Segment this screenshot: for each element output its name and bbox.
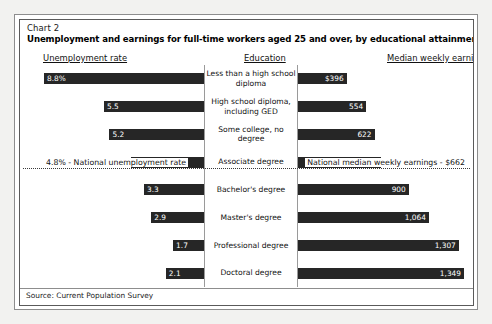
bar-unemployment-rate: 8.8% (44, 73, 204, 84)
bar-unemployment-rate: 5.2 (109, 129, 204, 140)
bar-value-unemployment-rate: 2.9 (154, 213, 166, 222)
bar-value-unemployment-rate: 8.8% (47, 74, 66, 83)
column-header-education: Education (244, 53, 286, 63)
reference-dotted-line (23, 168, 470, 169)
education-label: Professional degree (205, 232, 297, 260)
bar-unemployment-rate: 1.7 (173, 240, 204, 251)
bar-unemployment-rate: 5.5 (104, 101, 204, 112)
bar-median-weekly-earnings: 554 (298, 101, 366, 112)
bar-median-weekly-earnings: 1,307 (298, 240, 459, 251)
chart-row: 5.5High school diploma, including GED554 (20, 93, 473, 121)
bar-value-median-weekly-earnings: 554 (349, 102, 363, 111)
bar-value-unemployment-rate: 5.2 (112, 130, 124, 139)
bar-value-median-weekly-earnings: $396 (325, 74, 344, 83)
education-label: Master's degree (205, 204, 297, 232)
chart-container: Chart 2 Unemployment and earnings for fu… (19, 19, 474, 306)
chart-row: 1.7Professional degree1,307 (20, 232, 473, 260)
education-label: Doctoral degree (205, 259, 297, 287)
bar-median-weekly-earnings: 1,064 (298, 212, 429, 223)
chart-number: Chart 2 (27, 23, 59, 33)
bar-value-median-weekly-earnings: 900 (392, 185, 406, 194)
column-header-unemployment-rate: Unemployment rate (43, 53, 127, 63)
chart-row: 5.2Some college, no degree622 (20, 121, 473, 149)
reference-label-unemployment: 4.8% - National unemployment rate (44, 158, 188, 167)
education-label: Some college, no degree (205, 121, 297, 149)
chart-row: 3.3Bachelor's degree900 (20, 176, 473, 204)
bar-median-weekly-earnings: 622 (298, 129, 375, 140)
column-header-median-weekly-earnings: Median weekly earnings (387, 53, 474, 63)
bar-unemployment-rate: 2.9 (151, 212, 204, 223)
bar-value-median-weekly-earnings: 1,349 (440, 269, 461, 278)
bar-unemployment-rate: 2.1 (166, 268, 204, 279)
bar-median-weekly-earnings: 900 (298, 184, 409, 195)
education-label: Bachelor's degree (205, 176, 297, 204)
bar-value-unemployment-rate: 3.3 (147, 185, 159, 194)
plot-area: 8.8%Less than a high school diploma$3965… (20, 65, 473, 287)
chart-row: 8.8%Less than a high school diploma$396 (20, 65, 473, 93)
bar-value-unemployment-rate: 5.5 (107, 102, 119, 111)
reference-label-earnings: National median weekly earnings - $662 (305, 158, 467, 167)
bar-value-unemployment-rate: 2.1 (169, 269, 181, 278)
source-divider (20, 288, 473, 289)
bar-value-median-weekly-earnings: 1,064 (405, 213, 426, 222)
bar-unemployment-rate: 3.3 (144, 184, 204, 195)
bar-median-weekly-earnings: 1,349 (298, 268, 464, 279)
bar-median-weekly-earnings: $396 (298, 73, 347, 84)
bar-value-median-weekly-earnings: 1,307 (435, 241, 456, 250)
bar-value-unemployment-rate: 1.7 (176, 241, 188, 250)
chart-title: Unemployment and earnings for full-time … (27, 34, 474, 44)
national-average-reference: 4.8% - National unemployment rate Nation… (20, 148, 473, 170)
education-label: High school diploma, including GED (205, 93, 297, 121)
education-label: Less than a high school diploma (205, 65, 297, 93)
chart-row: 2.9Master's degree1,064 (20, 204, 473, 232)
source-note: Source: Current Population Survey (26, 291, 153, 300)
chart-row: 2.1Doctoral degree1,349 (20, 259, 473, 287)
chart-page: Chart 2 Unemployment and earnings for fu… (0, 0, 492, 324)
bar-value-median-weekly-earnings: 622 (357, 130, 371, 139)
